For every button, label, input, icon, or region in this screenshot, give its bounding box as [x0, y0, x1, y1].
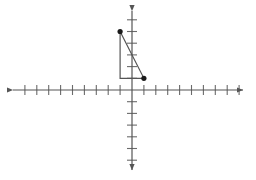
vertex-point-a: [118, 29, 123, 34]
vertex-point-c: [141, 76, 146, 81]
coordinate-plane-graph: Coordinate plane with right triangle: [0, 0, 256, 180]
figure-root: Coordinate plane with right triangle: [0, 0, 256, 180]
